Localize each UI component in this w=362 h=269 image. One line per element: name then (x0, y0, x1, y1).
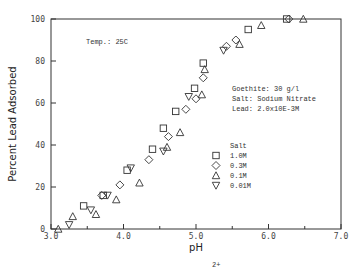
y-tick-label: 40 (35, 141, 45, 150)
legend-label: 1.0M (230, 152, 247, 160)
plot-frame (51, 19, 341, 229)
x-tick-label: 5.0 (189, 232, 204, 241)
series-0.1M (55, 15, 307, 232)
y-tick-label: 0 (40, 225, 45, 234)
x-axis: 3.04.05.06.07.0 (44, 224, 349, 241)
legend-label: 0.1M (230, 172, 247, 180)
x-tick-label: 7.0 (334, 232, 349, 241)
y-tick-label: 60 (35, 99, 45, 108)
legend-item: 0.01M (212, 182, 251, 190)
y-axis-label: Percent Lead Adsorbed (7, 66, 18, 181)
lead-annotation: Lead: 2.0x10E-3M (232, 105, 299, 113)
x-tick-label: 3.0 (44, 232, 59, 241)
legend-title: Salt (230, 142, 247, 150)
y-tick-label: 20 (35, 183, 45, 192)
y-axis: 020406080100 (31, 15, 56, 234)
temperature-annotation: Temp.: 25C (86, 38, 128, 46)
legend-item: 0.1M (212, 172, 247, 180)
goethite-annotation: Goethite: 30 g/l (232, 85, 299, 93)
data-points (55, 15, 307, 232)
legend-item: 0.3M (212, 162, 247, 171)
legend-label: 0.01M (230, 182, 251, 190)
salt-annotation: Salt: Sodium Nitrate (232, 95, 316, 103)
legend-item: 1.0M (213, 152, 247, 160)
y-tick-label: 80 (35, 57, 45, 66)
legend: Salt 1.0M0.3M0.1M0.01M (212, 142, 251, 190)
legend-label: 0.3M (230, 162, 247, 170)
x-tick-label: 4.0 (116, 232, 131, 241)
y-tick-label: 100 (31, 15, 46, 24)
x-axis-label: pH (189, 242, 203, 253)
footer-fragment: 2+ (212, 261, 220, 269)
scatter-chart: 3.04.05.06.07.0 020406080100 pH Percent … (0, 0, 362, 269)
x-tick-label: 6.0 (261, 232, 276, 241)
